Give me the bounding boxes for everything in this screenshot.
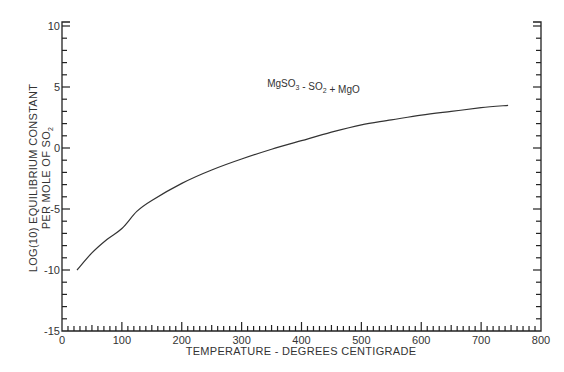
y-tick-label: 10 — [48, 20, 60, 32]
y-axis-title-line-2: PER MOLE OF SO2 — [40, 127, 54, 230]
y-axis-ticks — [62, 26, 541, 319]
x-tick-label: 100 — [113, 334, 131, 346]
x-tick-label: 800 — [532, 334, 550, 346]
reaction-annotation: MgSO3 - SO2 + MgO — [267, 78, 360, 95]
y-tick-label: -15 — [44, 325, 60, 337]
y-tick-label: 0 — [54, 142, 60, 154]
x-axis-ticks — [68, 322, 535, 331]
axes — [62, 22, 541, 331]
x-axis-title: TEMPERATURE - DEGREES CENTIGRADE — [186, 345, 417, 357]
y-axis-title: LOG(10) EQUILIBRIUM CONSTANT PER MOLE OF… — [27, 84, 54, 273]
chart: 0100200300400500600700800 1050-5-10-15 M… — [0, 0, 564, 372]
y-tick-label: 5 — [54, 81, 60, 93]
equilibrium-constant-curve — [77, 105, 508, 270]
x-tick-label: 700 — [472, 334, 490, 346]
y-axis-title-line-1: LOG(10) EQUILIBRIUM CONSTANT — [27, 84, 39, 273]
y-tick-label: -10 — [44, 264, 60, 276]
axis-frame — [62, 22, 541, 331]
